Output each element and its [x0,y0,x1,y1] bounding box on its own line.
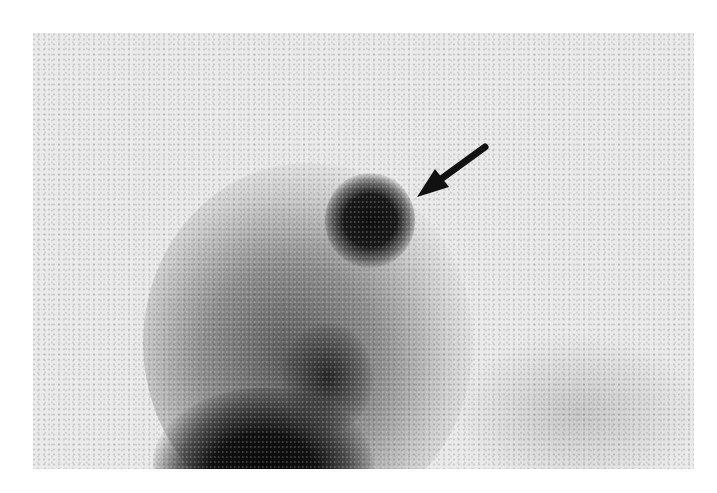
scintigraphy-image [33,33,694,469]
arrow-icon [413,141,493,201]
noise-texture [33,33,694,469]
